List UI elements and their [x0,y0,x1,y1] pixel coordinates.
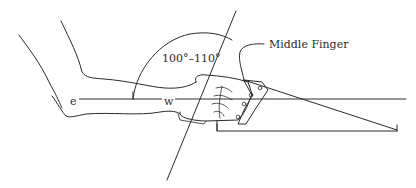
upper-arm-contour [19,35,62,108]
diagram-canvas: 100°–110° Middle Finger e w [0,0,416,188]
middle-finger-leader [239,44,264,80]
strap-rivet-3 [242,102,246,106]
strap-rivet-1 [258,86,262,90]
diagram-drawing [0,0,416,188]
hand-axis-line [167,11,236,180]
strap-rivet-4 [236,115,240,119]
elbow-point-label: e [68,96,79,107]
finger-line-1 [216,87,232,92]
middle-finger-label: Middle Finger [269,39,348,50]
angle-label: 100°–110° [162,53,221,64]
finger-line-3 [212,103,228,108]
hand-outline [180,75,252,121]
wrist-point-label: w [162,96,175,107]
angle-arc [133,33,232,99]
